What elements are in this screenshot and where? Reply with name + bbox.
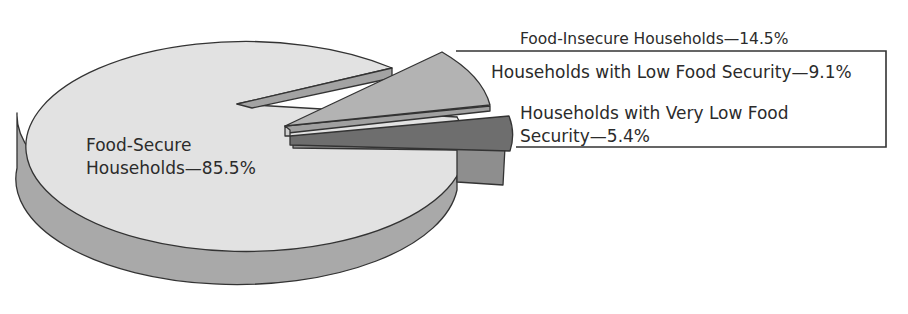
very-low-security-label-line2: Security—5.4% (520, 125, 650, 147)
food-secure-label-line2: Households—85.5% (86, 157, 256, 179)
food-insecure-label: Food-Insecure Households—14.5% (520, 28, 788, 50)
very-low-security-label-line1: Households with Very Low Food (520, 102, 789, 124)
food-secure-label-line1: Food-Secure (86, 134, 191, 156)
low-security-label: Households with Low Food Security—9.1% (491, 61, 852, 83)
